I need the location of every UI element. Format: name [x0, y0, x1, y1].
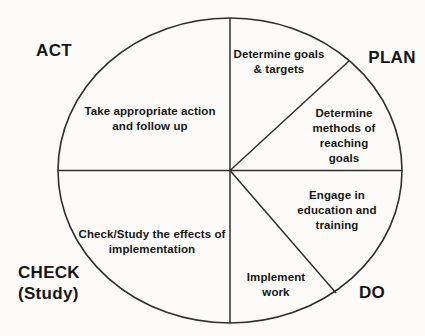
pdca-cycle-diagram: ACT PLAN CHECK (Study) DO Determine goal… — [0, 0, 425, 336]
phase-label-check: CHECK (Study) — [18, 262, 80, 304]
segment-implement-work: Implement work — [247, 270, 305, 300]
phase-label-do: DO — [359, 282, 385, 303]
phase-label-act: ACT — [36, 40, 72, 61]
segment-determine-methods: Determine methods of reaching goals — [304, 106, 385, 166]
segment-check-effects: Check/Study the effects of implementatio… — [78, 227, 225, 257]
phase-label-plan: PLAN — [368, 47, 415, 68]
segment-engage-education: Engage in education and training — [297, 188, 376, 233]
segment-determine-goals: Determine goals & targets — [234, 47, 325, 77]
segment-take-action: Take appropriate action and follow up — [84, 104, 215, 134]
